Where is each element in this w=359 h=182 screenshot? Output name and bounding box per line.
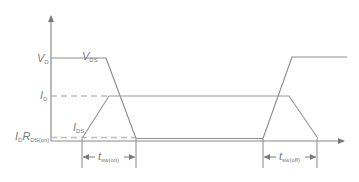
ids-curve-label: IDS bbox=[73, 121, 84, 134]
ids-waveform bbox=[82, 96, 318, 139]
vd-axis-label: VD bbox=[37, 52, 49, 65]
vds-curve-label: VDS bbox=[82, 50, 98, 63]
id-rds-on-axis-label: IDRDS(on) bbox=[15, 130, 49, 143]
switching-waveform-diagram: VD ID IDRDS(on) VDS IDS tsw(on) tsw(off) bbox=[0, 0, 359, 182]
vds-waveform bbox=[51, 57, 347, 139]
tsw-off-label: tsw(off) bbox=[279, 150, 300, 163]
id-axis-label: ID bbox=[40, 89, 48, 102]
tsw-on-label: tsw(on) bbox=[98, 150, 119, 163]
